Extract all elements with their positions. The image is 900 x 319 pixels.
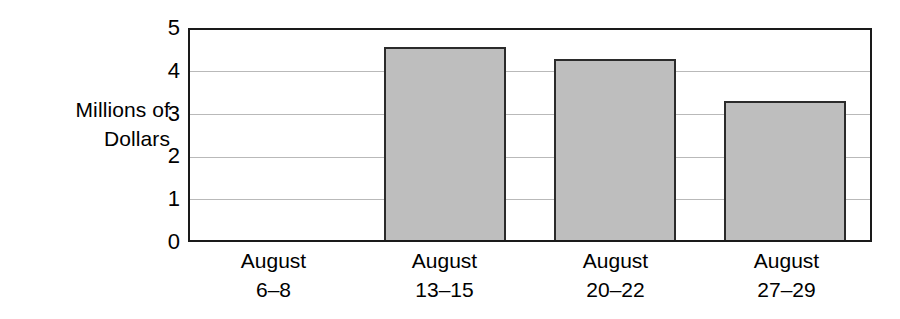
bar-august-13-15[interactable]: [384, 47, 506, 240]
x-category-label-4: August 27–29: [701, 246, 872, 304]
bar-slot-3: [530, 30, 700, 240]
y-tick-label-1: 1: [150, 188, 180, 210]
bar-chart-figure: Millions of Dollars 5 4 3 2 1 0: [0, 0, 900, 319]
bar-august-27-29[interactable]: [724, 101, 846, 240]
plot-area: [188, 28, 872, 242]
y-tick-label-5: 5: [150, 17, 180, 39]
bar-slot-2: [360, 30, 530, 240]
y-tick-label-4: 4: [150, 60, 180, 82]
x-category-label-3: August 20–22: [530, 246, 701, 304]
y-tick-label-3: 3: [150, 103, 180, 125]
x-axis-category-labels: August 6–8 August 13–15 August 20–22 Aug…: [188, 246, 872, 304]
x-category-label-1: August 6–8: [188, 246, 359, 304]
bar-slot-1: [190, 30, 360, 240]
y-tick-label-0: 0: [150, 231, 180, 253]
bars-layer: [190, 30, 870, 240]
x-category-label-2: August 13–15: [359, 246, 530, 304]
y-axis-title: Millions of Dollars: [10, 95, 170, 153]
y-tick-label-2: 2: [150, 145, 180, 167]
bar-slot-4: [700, 30, 870, 240]
y-axis-tick-labels: 5 4 3 2 1 0: [150, 28, 180, 242]
bar-august-20-22[interactable]: [554, 59, 676, 240]
